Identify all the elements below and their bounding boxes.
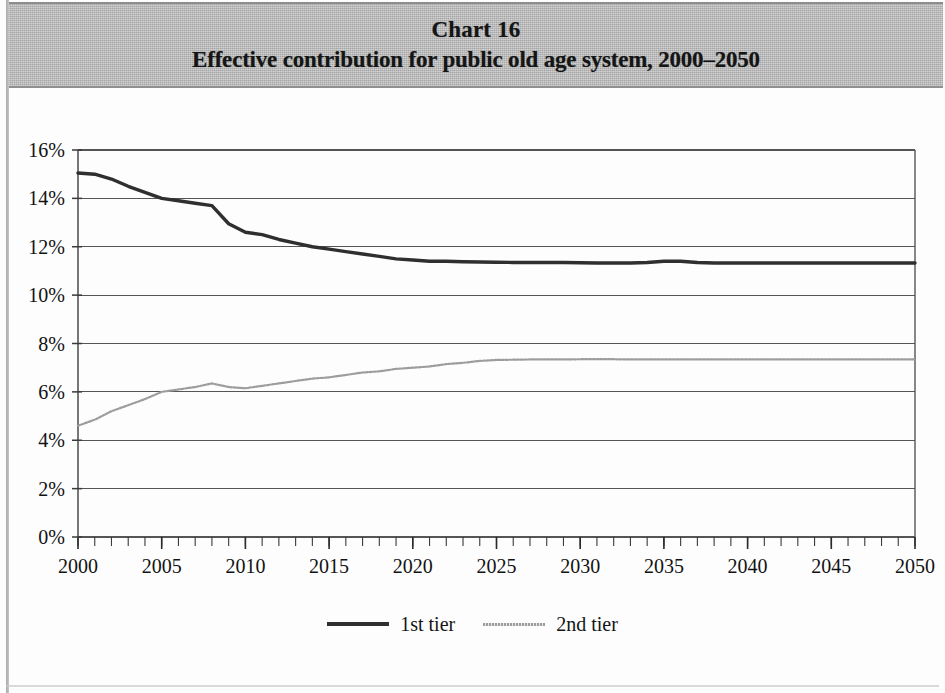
x-axis-label: 2030 — [560, 555, 600, 577]
y-axis-label: 14% — [28, 187, 65, 209]
x-axis-label: 2050 — [895, 555, 935, 577]
chart-number: Chart 16 — [431, 18, 520, 42]
x-axis-label: 2045 — [811, 555, 851, 577]
x-axis-label: 2000 — [58, 555, 98, 577]
legend-item-1st-tier: 1st tier — [327, 613, 455, 636]
chart-plot-area: 0%2%4%6%8%10%12%14%16% 20002005201020152… — [0, 96, 945, 596]
x-axis-label: 2040 — [728, 555, 768, 577]
legend-label-1st-tier: 1st tier — [400, 613, 455, 636]
x-axis-label: 2035 — [644, 555, 684, 577]
gridlines-group — [78, 150, 915, 537]
y-axis-label: 12% — [28, 236, 65, 258]
series-line-1st-tier — [78, 173, 915, 263]
y-axis-tick-labels: 0%2%4%6%8%10%12%14%16% — [28, 139, 65, 548]
y-axis-label: 0% — [38, 526, 65, 548]
legend-label-2nd-tier: 2nd tier — [556, 613, 618, 636]
y-axis-label: 6% — [38, 381, 65, 403]
x-axis-label: 2020 — [393, 555, 433, 577]
legend-line-icon-2nd-tier — [483, 623, 545, 626]
chart-title: Effective contribution for public old ag… — [192, 48, 760, 72]
page-canvas: Chart 16 Effective contribution for publ… — [0, 0, 945, 693]
data-series-layer — [78, 173, 915, 426]
x-axis-label: 2005 — [142, 555, 182, 577]
y-axis-label: 10% — [28, 284, 65, 306]
legend-item-2nd-tier: 2nd tier — [483, 613, 618, 636]
page-bottom-rule — [6, 685, 939, 687]
line-chart-svg: 0%2%4%6%8%10%12%14%16% 20002005201020152… — [0, 96, 945, 596]
x-axis-major-ticks — [78, 537, 915, 549]
banner-bottom-rule — [9, 86, 943, 88]
series-line-2nd-tier — [78, 359, 915, 426]
y-axis-label: 4% — [38, 429, 65, 451]
legend-line-icon-1st-tier — [327, 622, 389, 626]
chart-legend: 1st tier 2nd tier — [0, 604, 945, 644]
x-axis-label: 2025 — [477, 555, 517, 577]
chart-title-banner: Chart 16 Effective contribution for publ… — [9, 2, 943, 86]
y-axis-label: 8% — [38, 333, 65, 355]
y-axis-ticks — [72, 150, 82, 537]
y-axis-label: 16% — [28, 139, 65, 161]
x-axis-label: 2015 — [309, 555, 349, 577]
y-axis-label: 2% — [38, 478, 65, 500]
x-axis-tick-labels: 2000200520102015202020252030203520402045… — [58, 555, 935, 577]
x-axis-label: 2010 — [225, 555, 265, 577]
